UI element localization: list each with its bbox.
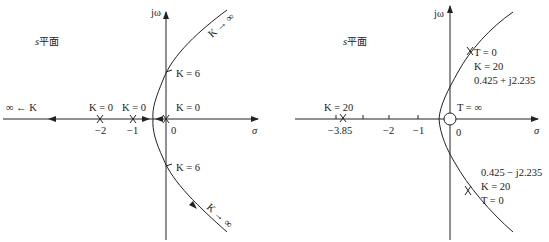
- right-plane-label: s平面: [343, 36, 367, 47]
- right-k20-real-label: K = 20: [324, 102, 353, 113]
- left-k0-a-label: K = 0: [89, 102, 113, 113]
- left-arrow-right-icon: [142, 116, 150, 122]
- right-upper-point-label: 0.425 + j2.235: [474, 75, 535, 86]
- zero-marker-icon: [444, 113, 456, 125]
- right-sigma-label: σ: [534, 125, 540, 136]
- right-lower-t0-label: T = 0: [481, 195, 504, 206]
- left-arrow-left-icon: [48, 116, 56, 122]
- left-k6-upper-label: K = 6: [176, 68, 200, 79]
- right-upper-k20-label: K = 20: [474, 61, 503, 72]
- right-axis-ticks: [336, 115, 418, 119]
- pole-marker-icon: [465, 186, 471, 195]
- right-root-locus: s平面 jω σ −3.85 −2 −1 0 K = 20 T = ∞ T = …: [295, 6, 542, 240]
- left-k0-c-label: K = 0: [176, 102, 200, 113]
- left-tick-neg1: −1: [127, 125, 138, 136]
- pole-marker-icon: [340, 114, 346, 122]
- right-lower-point-label: 0.425 − j2.235: [481, 167, 542, 178]
- right-tick-0: 0: [456, 127, 461, 138]
- left-k6-lower-label: K = 6: [176, 162, 200, 173]
- right-jw-label: jω: [433, 8, 444, 19]
- right-tick-neg2: −2: [383, 125, 394, 136]
- k6-lower-tick: [166, 164, 172, 166]
- right-tick-neg385: −3.85: [328, 125, 352, 136]
- right-upper-t0-label: T = 0: [474, 47, 497, 58]
- left-infinity-label: ∞ ← K: [6, 102, 37, 113]
- root-locus-figure: s平面 jω σ −2 −1 0 ∞ ← K K = 0 K = 0 K = 0…: [0, 0, 549, 242]
- left-root-locus: s平面 jω σ −2 −1 0 ∞ ← K K = 0 K = 0 K = 0…: [3, 7, 258, 240]
- left-sigma-label: σ: [252, 125, 258, 136]
- left-plane-label: s平面: [35, 36, 59, 47]
- left-tick-0: 0: [171, 125, 176, 136]
- left-jw-label: jω: [150, 7, 161, 18]
- right-tinf-label: T = ∞: [457, 102, 482, 113]
- right-tick-neg1: −1: [413, 125, 424, 136]
- left-tick-neg2: −2: [95, 125, 106, 136]
- left-arrow-left2-icon: [155, 116, 163, 122]
- right-lower-k20-label: K = 20: [481, 181, 510, 192]
- left-k0-b-label: K = 0: [122, 102, 146, 113]
